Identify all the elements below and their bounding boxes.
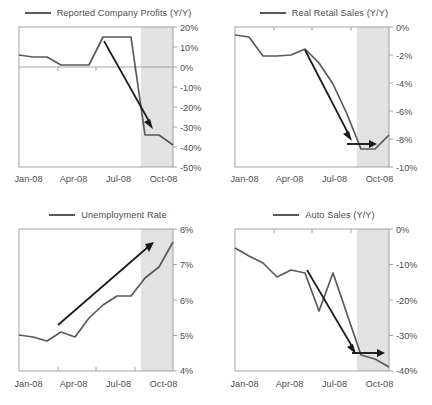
chart-grid: Reported Company Profits (Y/Y)	[0, 0, 432, 405]
x-tick-label: Jul-08	[312, 379, 357, 389]
x-tick-label: Oct-08	[141, 174, 186, 184]
panel-real-retail-sales: Real Retail Sales (Y/Y)	[216, 0, 432, 200]
y-axis-labels: 8% 7% 6% 5% 4%	[180, 225, 193, 377]
x-tick-marks	[58, 67, 135, 71]
svg-text:-40%: -40%	[180, 143, 201, 153]
x-tick-label: Jan-08	[6, 379, 51, 389]
panel-unemployment-rate: Unemployment Rate	[0, 200, 216, 405]
x-tick-marks	[274, 27, 351, 31]
legend-label: Reported Company Profits (Y/Y)	[57, 8, 192, 18]
x-tick-label: Apr-08	[267, 174, 312, 184]
trend-arrow-down	[307, 270, 356, 354]
plot-area-unemployment-rate: 8% 7% 6% 5% 4%	[0, 224, 216, 376]
y-tick-marks	[389, 229, 393, 371]
svg-text:-6%: -6%	[396, 107, 412, 117]
x-tick-label: Jul-08	[312, 174, 357, 184]
legend-label: Unemployment Rate	[81, 210, 166, 220]
x-tick-label: Jan-08	[222, 379, 267, 389]
chart-svg-auto: 0% -10% -20% -30% -40%	[216, 224, 432, 376]
svg-text:8%: 8%	[180, 225, 193, 235]
x-tick-label: Jan-08	[6, 174, 51, 184]
svg-text:0%: 0%	[396, 23, 409, 33]
svg-text:-10%: -10%	[396, 163, 417, 173]
svg-text:10%: 10%	[180, 43, 198, 53]
svg-text:-4%: -4%	[396, 79, 412, 89]
x-tick-label: Apr-08	[51, 174, 96, 184]
y-axis-labels: 20% 10% 0% -10% -20% -30% -40% -50%	[180, 23, 201, 173]
x-tick-label: Oct-08	[357, 174, 402, 184]
legend-unemployment-rate: Unemployment Rate	[0, 208, 216, 222]
y-tick-marks	[173, 27, 177, 167]
y-axis-labels: 0% -10% -20% -30% -40%	[396, 225, 417, 377]
svg-text:-10%: -10%	[180, 83, 201, 93]
legend-line-swatch	[260, 12, 286, 14]
svg-text:-20%: -20%	[180, 103, 201, 113]
chart-svg-unemployment: 8% 7% 6% 5% 4%	[0, 224, 216, 376]
legend-real-retail-sales: Real Retail Sales (Y/Y)	[216, 6, 432, 20]
svg-text:4%: 4%	[180, 366, 193, 376]
panel-reported-company-profits: Reported Company Profits (Y/Y)	[0, 0, 216, 200]
legend-line-swatch	[25, 12, 51, 14]
svg-text:0%: 0%	[180, 63, 193, 73]
svg-text:0%: 0%	[396, 225, 409, 235]
x-tick-marks	[274, 229, 351, 233]
svg-text:-50%: -50%	[180, 163, 201, 173]
x-axis-labels-retail: Jan-08 Apr-08 Jul-08 Oct-08	[222, 174, 402, 184]
panel-auto-sales: Auto Sales (Y/Y)	[216, 200, 432, 405]
svg-text:-10%: -10%	[396, 260, 417, 270]
legend-label: Real Retail Sales (Y/Y)	[292, 8, 388, 18]
y-tick-marks	[173, 229, 177, 371]
x-tick-marks	[58, 367, 135, 371]
x-axis-labels-profits: Jan-08 Apr-08 Jul-08 Oct-08	[6, 174, 186, 184]
svg-text:6%: 6%	[180, 296, 193, 306]
svg-text:5%: 5%	[180, 331, 193, 341]
svg-text:-8%: -8%	[396, 135, 412, 145]
x-tick-label: Oct-08	[141, 379, 186, 389]
chart-svg-retail: 0% -2% -4% -6% -8% -10%	[216, 22, 432, 172]
x-axis-labels-auto: Jan-08 Apr-08 Jul-08 Oct-08	[222, 379, 402, 389]
svg-text:20%: 20%	[180, 23, 198, 33]
svg-text:7%: 7%	[180, 260, 193, 270]
x-tick-label: Oct-08	[357, 379, 402, 389]
trend-arrow-down	[305, 50, 352, 141]
svg-text:-30%: -30%	[396, 331, 417, 341]
x-tick-label: Jan-08	[222, 174, 267, 184]
forecast-band	[141, 27, 173, 167]
svg-text:-40%: -40%	[396, 366, 417, 376]
svg-text:-30%: -30%	[180, 123, 201, 133]
legend-line-swatch	[49, 214, 75, 216]
plot-area-auto-sales: 0% -10% -20% -30% -40%	[216, 224, 432, 376]
svg-text:-2%: -2%	[396, 51, 412, 61]
svg-text:-20%: -20%	[396, 296, 417, 306]
plot-area-reported-company-profits: 20% 10% 0% -10% -20% -30% -40% -50%	[0, 22, 216, 172]
chart-svg-profits: 20% 10% 0% -10% -20% -30% -40% -50%	[0, 22, 216, 172]
y-tick-marks	[389, 27, 393, 167]
legend-reported-company-profits: Reported Company Profits (Y/Y)	[0, 6, 216, 20]
plot-area-real-retail-sales: 0% -2% -4% -6% -8% -10%	[216, 22, 432, 172]
legend-auto-sales: Auto Sales (Y/Y)	[216, 208, 432, 222]
trend-arrow-up	[58, 242, 154, 325]
legend-label: Auto Sales (Y/Y)	[305, 210, 375, 220]
forecast-band	[357, 229, 389, 371]
legend-line-swatch	[273, 214, 299, 216]
x-tick-label: Jul-08	[96, 174, 141, 184]
x-tick-label: Apr-08	[267, 379, 312, 389]
y-axis-labels: 0% -2% -4% -6% -8% -10%	[396, 23, 417, 173]
x-axis-labels-unemployment: Jan-08 Apr-08 Jul-08 Oct-08	[6, 379, 186, 389]
x-tick-label: Apr-08	[51, 379, 96, 389]
x-tick-label: Jul-08	[96, 379, 141, 389]
